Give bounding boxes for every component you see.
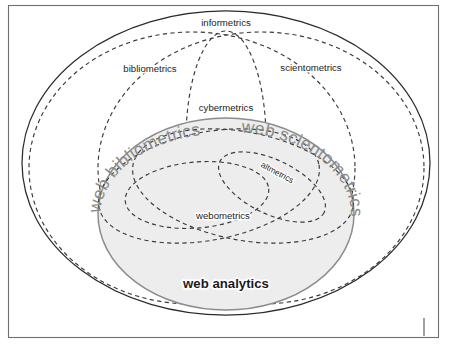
label-bibliometrics: bibliometrics [123, 63, 177, 74]
label-web-analytics: web analytics [182, 276, 269, 291]
label-webometrics: webometrics [195, 210, 250, 221]
label-scientometrics: scientometrics [280, 62, 342, 73]
venn-diagram-figure: informetrics informetrics bibliometrics … [0, 0, 449, 345]
label-cybermetrics: cybermetrics [199, 102, 254, 113]
venn-diagram-svg: informetrics informetrics bibliometrics … [0, 0, 449, 345]
label-informetrics: informetrics [201, 17, 251, 28]
